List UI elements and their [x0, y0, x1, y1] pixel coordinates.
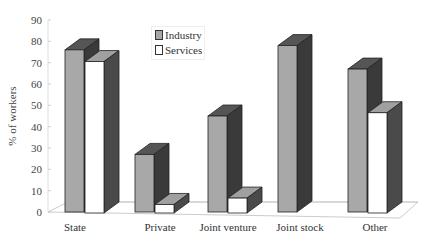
- y-tick-label: 10: [31, 185, 43, 197]
- y-tick-label: 90: [31, 14, 43, 26]
- x-category-label: Joint venture: [199, 221, 256, 233]
- y-tick-label: 40: [31, 121, 43, 133]
- y-axis-label: % of workers: [6, 86, 18, 145]
- bar: [65, 50, 84, 212]
- bar: [278, 46, 297, 212]
- x-category-label: Other: [362, 221, 387, 233]
- x-category-label: Joint stock: [276, 221, 324, 233]
- y-tick-label: 60: [31, 78, 43, 90]
- bar: [228, 198, 247, 213]
- x-category-label: Private: [144, 221, 175, 233]
- y-tick-label: 0: [37, 206, 43, 218]
- bar: [368, 113, 387, 213]
- y-tick-label: 50: [31, 99, 43, 111]
- bar: [135, 154, 154, 212]
- bar: [155, 204, 174, 213]
- y-tick-label: 20: [31, 163, 43, 175]
- y-tick-label: 80: [31, 35, 43, 47]
- bar: [85, 62, 104, 213]
- y-tick-label: 70: [31, 57, 43, 69]
- y-tick-label: 30: [31, 142, 43, 154]
- x-category-label: State: [64, 221, 86, 233]
- bar: [348, 69, 367, 212]
- bar: [208, 116, 227, 212]
- bar-chart: 0102030405060708090% of workersStatePriv…: [0, 0, 433, 245]
